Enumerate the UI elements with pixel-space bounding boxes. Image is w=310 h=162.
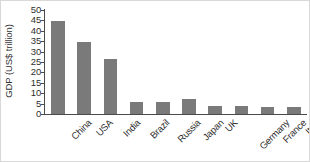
- x-tick-label: USA: [94, 117, 115, 138]
- bar: [261, 107, 275, 114]
- y-tick-label: 35: [1, 36, 41, 45]
- y-tick-label: 40: [1, 26, 41, 35]
- bar: [51, 21, 65, 114]
- bar: [130, 102, 144, 114]
- x-tick-label: UK: [223, 117, 240, 134]
- bar: [182, 99, 196, 114]
- y-tick-mark: [41, 104, 44, 105]
- y-tick-label: 30: [1, 47, 41, 56]
- bar: [156, 102, 170, 114]
- y-tick-label: 10: [1, 88, 41, 97]
- y-tick-mark: [41, 93, 44, 94]
- x-tick-label: Russia: [175, 117, 202, 144]
- y-tick-mark: [41, 83, 44, 84]
- x-axis-tick-labels: ChinaUSAIndiaBrazilRussiaJapanUKGermanyF…: [45, 115, 307, 162]
- y-tick-mark: [41, 10, 44, 11]
- y-tick-label: 20: [1, 67, 41, 76]
- y-tick-mark: [41, 72, 44, 73]
- x-tick-label: Brazil: [147, 117, 171, 141]
- bar: [104, 59, 118, 114]
- y-tick-mark: [41, 52, 44, 53]
- y-axis-tick-labels: 05101520253035404550: [1, 1, 41, 162]
- y-tick-mark: [41, 20, 44, 21]
- y-tick-label: 15: [1, 78, 41, 87]
- x-tick-label: Japan: [200, 117, 225, 142]
- x-tick-label: India: [120, 117, 142, 139]
- y-tick-mark: [41, 114, 44, 115]
- bar: [77, 42, 91, 114]
- bar: [287, 107, 301, 114]
- y-tick-label: 45: [1, 15, 41, 24]
- bar-chart-figure: GDP (US$ trillion) 05101520253035404550 …: [0, 0, 310, 162]
- y-tick-mark: [41, 31, 44, 32]
- x-tick-label: China: [69, 117, 94, 142]
- y-tick-label: 0: [1, 109, 41, 118]
- y-tick-label: 5: [1, 99, 41, 108]
- y-tick-mark: [41, 62, 44, 63]
- y-tick-label: 25: [1, 57, 41, 66]
- y-tick-label: 50: [1, 5, 41, 14]
- bar-series: [45, 10, 307, 114]
- bar: [208, 106, 222, 114]
- bar: [235, 106, 249, 114]
- y-tick-mark: [41, 41, 44, 42]
